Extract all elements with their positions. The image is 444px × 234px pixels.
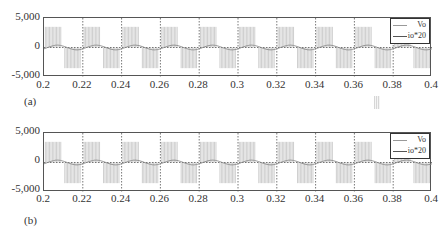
x-tick-label: 0.24 bbox=[106, 192, 136, 204]
y-tick-zero: 0 bbox=[0, 39, 40, 51]
legend-swatch-io bbox=[393, 151, 407, 152]
x-tick-label: 0.2 bbox=[28, 78, 58, 90]
x-tick-label: 0.32 bbox=[261, 78, 291, 90]
x-tick-label: 0.26 bbox=[144, 78, 174, 90]
x-tick-label: 0.24 bbox=[106, 78, 136, 90]
x-tick-label: 0.34 bbox=[300, 192, 330, 204]
x-tick-label: 0.3 bbox=[222, 78, 252, 90]
y-tick-top: 5,000 bbox=[0, 10, 40, 22]
legend-label-io: io*20 bbox=[408, 31, 426, 41]
x-axis-ticks: 0.20.220.240.260.280.30.320.340.360.380.… bbox=[0, 78, 444, 92]
x-tick-label: 0.4 bbox=[416, 192, 444, 204]
x-tick-label: 0.28 bbox=[183, 192, 213, 204]
x-tick-label: 0.26 bbox=[144, 192, 174, 204]
legend-label-vo: Vo bbox=[417, 135, 426, 145]
x-tick-label: 0.36 bbox=[338, 192, 368, 204]
legend-swatch-vo bbox=[393, 140, 407, 141]
x-tick-label: 0.2 bbox=[28, 192, 58, 204]
scan-artifact bbox=[374, 96, 380, 109]
x-tick-label: 0.38 bbox=[377, 192, 407, 204]
panel-label: (b) bbox=[24, 214, 37, 226]
panel-a: 5,000 0 -5,000 Vo io*20 0.20.220.240.260… bbox=[0, 0, 444, 117]
x-tick-label: 0.36 bbox=[338, 78, 368, 90]
legend-swatch-io bbox=[393, 36, 407, 37]
waveform-plot bbox=[44, 18, 432, 77]
legend-label-io: io*20 bbox=[408, 146, 426, 156]
panel-b: 5,000 0 -5,000 Vo io*20 0.20.220.240.260… bbox=[0, 117, 444, 234]
y-tick-top: 5,000 bbox=[0, 124, 40, 136]
x-tick-label: 0.3 bbox=[222, 192, 252, 204]
legend: Vo io*20 bbox=[390, 133, 430, 159]
x-tick-label: 0.38 bbox=[377, 78, 407, 90]
waveform-plot bbox=[44, 133, 432, 192]
legend-label-vo: Vo bbox=[417, 20, 426, 30]
x-tick-label: 0.22 bbox=[67, 192, 97, 204]
x-tick-label: 0.28 bbox=[183, 78, 213, 90]
x-tick-label: 0.32 bbox=[261, 192, 291, 204]
plot-area-b: Vo io*20 bbox=[43, 132, 431, 191]
x-tick-label: 0.22 bbox=[67, 78, 97, 90]
panel-label: (a) bbox=[24, 95, 36, 107]
y-tick-zero: 0 bbox=[0, 153, 40, 165]
legend-swatch-vo bbox=[393, 25, 407, 26]
x-tick-label: 0.4 bbox=[416, 78, 444, 90]
plot-area-a: Vo io*20 bbox=[43, 17, 431, 76]
legend: Vo io*20 bbox=[390, 18, 430, 44]
x-axis-ticks: 0.20.220.240.260.280.30.320.340.360.380.… bbox=[0, 192, 444, 206]
x-tick-label: 0.34 bbox=[300, 78, 330, 90]
